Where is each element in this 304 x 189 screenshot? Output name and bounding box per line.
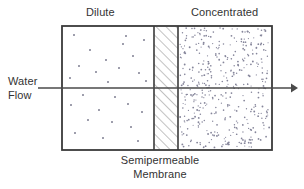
label-water-flow: Water Flow (8, 74, 56, 102)
osmosis-diagram: Dilute Concentrated Water Flow Semiperme… (0, 0, 304, 189)
water-flow-line-2: Flow (8, 88, 56, 102)
water-flow-line-1: Water (8, 74, 56, 88)
label-dilute: Dilute (86, 6, 115, 19)
water-flow-arrow-head (291, 84, 298, 93)
membrane-label-line-1: Semipermeable (98, 153, 222, 167)
membrane-label-line-2: Membrane (98, 167, 222, 181)
label-concentrated: Concentrated (191, 6, 258, 19)
label-semipermeable-membrane: Semipermeable Membrane (98, 153, 222, 181)
